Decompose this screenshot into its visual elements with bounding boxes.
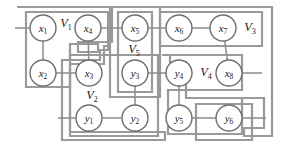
node-x8[interactable]: x8 [216, 60, 242, 86]
node-y4[interactable]: y4 [166, 60, 192, 86]
edge-x7-x8 [225, 41, 228, 60]
node-x4[interactable]: x4 [75, 15, 101, 41]
node-y3[interactable]: y3 [122, 60, 148, 86]
node-y5[interactable]: y5 [166, 105, 192, 131]
graph-partition-figure: x1x4x5x6x7x2x3y3y4x8y1y2y5y6V1V5V3V4V2 [0, 0, 287, 146]
region-label-V4: V4 [200, 65, 212, 80]
node-y1[interactable]: y1 [76, 105, 102, 131]
node-x3[interactable]: x3 [76, 60, 102, 86]
region-label-V3: V3 [244, 20, 256, 35]
node-x1[interactable]: x1 [30, 15, 56, 41]
region-label-V2: V2 [86, 88, 98, 103]
diagram-canvas: x1x4x5x6x7x2x3y3y4x8y1y2y5y6V1V5V3V4V2 [0, 0, 287, 146]
node-x5[interactable]: x5 [122, 15, 148, 41]
node-x6[interactable]: x6 [166, 15, 192, 41]
node-x2[interactable]: x2 [30, 60, 56, 86]
node-y2[interactable]: y2 [122, 105, 148, 131]
region-label-V1: V1 [60, 16, 72, 31]
node-y6[interactable]: y6 [216, 105, 242, 131]
region-label-V5: V5 [128, 42, 140, 57]
node-x7[interactable]: x7 [210, 15, 236, 41]
